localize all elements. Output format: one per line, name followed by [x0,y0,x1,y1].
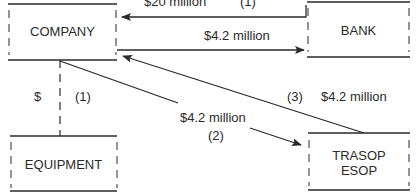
arrow-company-to-trasop [60,61,301,145]
bank-label: BANK [307,23,410,38]
company-to-equipment-step: (1) [75,90,91,103]
company-to-trasop-amount: $4.2 million [180,111,246,124]
equipment-label: EQUIPMENT [10,157,117,172]
trasop-to-company-step: (3) [287,90,303,103]
company-to-equipment-amount: $ [34,90,41,103]
trasop-label-line1: TRASOP [308,148,410,163]
bank-to-company-step: (1) [240,0,256,8]
trasop-label-line2: ESOP [308,163,410,178]
trasop-to-company-amount: $4.2 million [321,90,387,103]
bank-to-company-amount: $20 million [144,0,206,8]
company-label: COMPANY [8,24,117,39]
trasop-label: TRASOP ESOP [308,148,410,178]
company-to-trasop-step: (2) [208,129,224,142]
company-to-bank-amount: $4.2 million [204,29,270,42]
